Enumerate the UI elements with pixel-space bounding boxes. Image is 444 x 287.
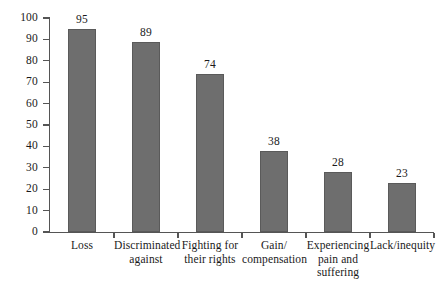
y-axis-tick-label: 50 — [4, 119, 38, 131]
y-axis-tick-label: 0 — [4, 226, 38, 238]
bar-value-label: 89 — [116, 27, 176, 39]
y-axis-tick — [43, 82, 49, 83]
x-axis-tick — [305, 233, 306, 238]
y-axis-tick-label: 90 — [4, 33, 38, 45]
bars-layer — [50, 18, 434, 232]
bar — [388, 183, 416, 232]
bar-value-label: 95 — [52, 14, 112, 26]
y-axis-tick-label: 60 — [4, 98, 38, 110]
y-axis-tick-label: 70 — [4, 76, 38, 88]
bar — [132, 42, 160, 232]
bar-value-label: 38 — [244, 136, 304, 148]
x-axis-tick — [241, 233, 242, 238]
x-axis-category-label: Lack/inequity — [370, 239, 434, 253]
bar — [260, 151, 288, 232]
y-axis-tick-label: 100 — [4, 12, 38, 24]
x-axis-category-label: Fighting for their rights — [178, 239, 242, 266]
x-axis-tick — [177, 233, 178, 238]
bar-chart: 1009080706050403020100 958974382823 Loss… — [0, 0, 444, 287]
bar-value-label: 28 — [308, 157, 368, 169]
x-axis-tick — [113, 233, 114, 238]
x-axis-category-label: Gain/ compensation — [242, 239, 306, 266]
bar-value-label: 23 — [372, 168, 432, 180]
y-axis-tick — [43, 210, 49, 211]
bar-value-label: 74 — [180, 59, 240, 71]
x-axis-category-label: Loss — [50, 239, 114, 253]
bar — [196, 74, 224, 232]
y-axis-tick — [43, 39, 49, 40]
x-axis-category-label: Experiencing pain and suffering — [306, 239, 370, 280]
y-axis-tick-label: 30 — [4, 162, 38, 174]
y-axis-tick-label: 80 — [4, 55, 38, 67]
y-axis-tick — [43, 103, 49, 104]
x-axis-tick — [369, 233, 370, 238]
y-axis-tick — [43, 231, 49, 232]
y-axis-tick-label: 10 — [4, 205, 38, 217]
y-axis-tick — [43, 60, 49, 61]
y-axis-tick — [43, 146, 49, 147]
y-axis-tick-label: 20 — [4, 183, 38, 195]
bar — [68, 29, 96, 232]
x-axis-tick — [433, 233, 434, 238]
y-axis-tick — [43, 17, 49, 18]
x-axis-category-label: Discriminated against — [114, 239, 178, 266]
bar — [324, 172, 352, 232]
y-axis-tick — [43, 167, 49, 168]
y-axis-tick — [43, 124, 49, 125]
y-axis-tick-label: 40 — [4, 140, 38, 152]
y-axis-tick — [43, 189, 49, 190]
